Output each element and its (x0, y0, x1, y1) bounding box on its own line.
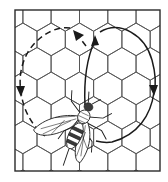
honeycomb-cell (0, 170, 9, 182)
honeycomb-cell (108, 0, 136, 31)
right-return-loop (96, 28, 155, 143)
honeycomb-cell (9, 23, 37, 56)
honeycomb-cell (122, 121, 150, 154)
honeycomb-cell (9, 121, 37, 154)
honeycomb-cell (80, 0, 108, 31)
honeycomb-cell (122, 170, 150, 182)
honeycomb-cell (122, 0, 150, 7)
honeycomb-cell (51, 48, 79, 81)
honeycomb-cell (65, 170, 93, 182)
honeycomb-cell (150, 0, 168, 7)
honeycomb-cell (122, 72, 150, 105)
honeycomb-cell (51, 0, 79, 31)
honeycomb-cell (0, 72, 9, 105)
honeycomb-cell (94, 170, 122, 182)
honeycomb-cell (0, 0, 9, 7)
honeycomb-cell (0, 146, 23, 179)
honeycomb-cell (164, 0, 168, 31)
honeycomb-cell (164, 146, 168, 179)
honeycomb-cell (9, 0, 37, 7)
honeycomb-cell (164, 97, 168, 130)
honeycomb-cell (150, 121, 168, 154)
honeycomb-cell (94, 72, 122, 105)
honeycomb-cell (80, 48, 108, 81)
honeycomb-cell (0, 48, 23, 81)
honeycomb-cell (0, 23, 9, 56)
honeycomb-cell (65, 0, 93, 7)
left-loop-arrow-down-icon (16, 86, 25, 97)
honeycomb-cell (94, 0, 122, 7)
honeycomb-cell (108, 48, 136, 81)
honeycomb-cell (37, 72, 65, 105)
honeycomb-cell (37, 0, 65, 7)
honeycomb-cell (9, 170, 37, 182)
honeycomb-cell (108, 97, 136, 130)
honeycomb-cell (94, 121, 122, 154)
honeycomb-cell (0, 0, 23, 31)
honeycomb-cell (108, 146, 136, 179)
waggle-dance-diagram: Honeybee waggle dance on honeycomb (0, 0, 168, 182)
bee-tail-line (61, 149, 70, 166)
left-loop-top-arrow-icon (73, 30, 84, 41)
honeycomb-cell (37, 170, 65, 182)
honeycomb-cell (0, 121, 9, 154)
honeycomb-cell (0, 97, 23, 130)
honeycomb-cell (150, 23, 168, 56)
waggle-arrow-up-icon (91, 35, 99, 46)
honeycomb-cell (37, 23, 65, 56)
honeycomb-cell (150, 170, 168, 182)
honeycomb-cell (65, 72, 93, 105)
honeycomb-cell (122, 23, 150, 56)
honeycomb-cell (23, 0, 51, 31)
bee-illustration (25, 77, 121, 177)
honeycomb-cell (23, 146, 51, 179)
honeycomb-cell (164, 48, 168, 81)
